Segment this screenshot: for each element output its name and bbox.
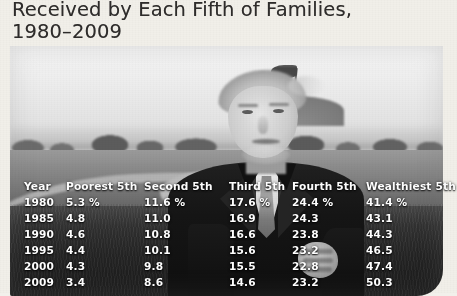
cell-fourth-fifth: 24.4 % [292,196,333,208]
cell-second-fifth: 10.1 [144,244,171,256]
cell-fourth-fifth: 24.3 [292,212,319,224]
cell-second-fifth: 9.8 [144,260,163,272]
table-row: 2000 4.3 9.8 15.5 22.8 47.4 [0,260,457,276]
cell-third-fifth: 16.6 [229,228,256,240]
eye-left [242,110,253,114]
hair-wisp [288,76,324,96]
column-header-wealthiest-fifth: Wealthiest 5th [366,180,456,192]
photo-top-fade [10,46,443,68]
column-header-poorest-fifth: Poorest 5th [66,180,137,192]
page-title: Received by Each Fifth of Families, 1980… [12,0,432,43]
cell-year: 2000 [24,260,54,272]
cell-wealthiest-fifth: 46.5 [366,244,393,256]
table-row: 2009 3.4 8.6 14.6 23.2 50.3 [0,276,457,292]
cell-second-fifth: 10.8 [144,228,171,240]
cell-year: 1980 [24,196,54,208]
column-header-year: Year [24,180,51,192]
column-header-third-fifth: Third 5th [229,180,285,192]
cell-fourth-fifth: 22.8 [292,260,319,272]
cell-year: 1995 [24,244,54,256]
cell-year: 2009 [24,276,54,288]
cell-third-fifth: 17.6 % [229,196,270,208]
cell-wealthiest-fifth: 47.4 [366,260,393,272]
table-row: 1990 4.6 10.8 16.6 23.8 44.3 [0,228,457,244]
cell-poorest-fifth: 3.4 [66,276,85,288]
table-row: 1980 5.3 % 11.6 % 17.6 % 24.4 % 41.4 % [0,196,457,212]
cell-third-fifth: 15.6 [229,244,256,256]
eyebrow-right [269,103,289,106]
table-row: 1995 4.4 10.1 15.6 23.2 46.5 [0,244,457,260]
column-header-fourth-fifth: Fourth 5th [292,180,357,192]
cell-poorest-fifth: 4.8 [66,212,85,224]
cell-third-fifth: 14.6 [229,276,256,288]
cell-poorest-fifth: 4.6 [66,228,85,240]
table-header-row: Year Poorest 5th Second 5th Third 5th Fo… [0,180,457,196]
cell-second-fifth: 8.6 [144,276,163,288]
cell-fourth-fifth: 23.8 [292,228,319,240]
cell-poorest-fifth: 4.3 [66,260,85,272]
cell-wealthiest-fifth: 50.3 [366,276,393,288]
cell-wealthiest-fifth: 43.1 [366,212,393,224]
eye-right [273,109,284,113]
table-row: 1985 4.8 11.0 16.9 24.3 43.1 [0,212,457,228]
cell-wealthiest-fifth: 41.4 % [366,196,407,208]
nose [258,116,268,134]
cell-poorest-fifth: 5.3 % [66,196,100,208]
cell-poorest-fifth: 4.4 [66,244,85,256]
eyebrow-left [238,104,258,107]
mouth [252,139,280,144]
cell-second-fifth: 11.0 [144,212,171,224]
cell-wealthiest-fifth: 44.3 [366,228,393,240]
chin [242,146,290,164]
cell-second-fifth: 11.6 % [144,196,185,208]
cell-third-fifth: 16.9 [229,212,256,224]
column-header-second-fifth: Second 5th [144,180,213,192]
cell-third-fifth: 15.5 [229,260,256,272]
cell-year: 1990 [24,228,54,240]
cell-year: 1985 [24,212,54,224]
cell-fourth-fifth: 23.2 [292,276,319,288]
cell-fourth-fifth: 23.2 [292,244,319,256]
